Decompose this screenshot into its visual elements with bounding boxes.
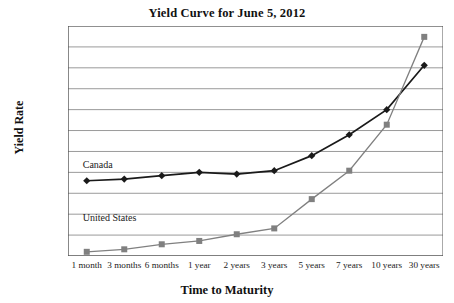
x-axis-tick-label: 1 year (188, 260, 211, 270)
data-point-marker (196, 169, 203, 176)
data-point-marker (84, 249, 90, 255)
data-point-marker (271, 167, 278, 174)
data-point-marker (233, 170, 240, 177)
series-label-united-states: United States (83, 212, 137, 223)
x-axis-title: Time to Maturity (0, 283, 454, 298)
series-line-canada (87, 65, 425, 180)
x-axis-tick-label: 30 years (409, 260, 440, 270)
x-axis-tick-label: 6 months (145, 260, 179, 270)
data-point-marker (384, 122, 390, 128)
data-point-marker (83, 177, 90, 184)
data-point-marker (196, 238, 202, 244)
data-point-marker (308, 152, 315, 159)
x-axis-tick-label: 2 years (224, 260, 250, 270)
yield-curve-chart: Yield Curve for June 5, 2012 Yield Rate … (0, 0, 454, 303)
x-axis-tick-label: 5 years (299, 260, 325, 270)
x-axis-tick-label: 1 month (72, 260, 102, 270)
data-point-marker (121, 246, 127, 252)
x-axis-tick-label: 3 years (261, 260, 287, 270)
x-axis-tick-label: 10 years (371, 260, 402, 270)
data-point-marker (271, 225, 277, 231)
y-axis-title: Yield Rate (12, 83, 27, 173)
data-point-marker (234, 231, 240, 237)
chart-title: Yield Curve for June 5, 2012 (0, 6, 454, 21)
data-point-marker (121, 175, 128, 182)
data-point-marker (421, 34, 427, 40)
data-point-marker (346, 168, 352, 174)
plot-area: 0.0%0.5%1.0%1.5%2.0%2.5% 1 month3 months… (68, 26, 443, 256)
x-axis-tick-label: 3 months (107, 260, 141, 270)
series-line-united-states (87, 37, 425, 252)
data-point-marker (309, 196, 315, 202)
data-point-marker (158, 172, 165, 179)
x-axis-tick-label: 7 years (336, 260, 362, 270)
data-point-marker (159, 241, 165, 247)
series-label-canada: Canada (83, 159, 113, 170)
